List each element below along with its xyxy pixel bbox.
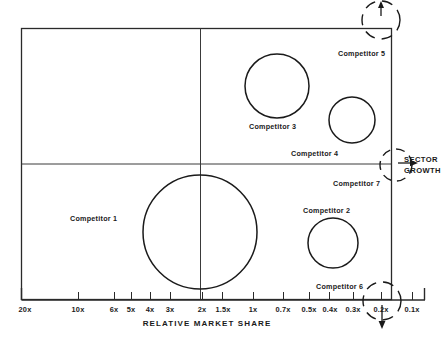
x-tick-label-6x: 6x bbox=[110, 306, 119, 313]
sector-growth-line-2: GROWTH bbox=[404, 165, 441, 176]
x-axis-ticks bbox=[79, 292, 413, 300]
x-tick-label-0.5x: 0.5x bbox=[301, 306, 316, 313]
bubble-label-competitor-6: Competitor 6 bbox=[316, 283, 363, 290]
bubble-label-competitor-2: Competitor 2 bbox=[303, 207, 350, 214]
x-tick-label-0.1x: 0.1x bbox=[404, 306, 419, 313]
x-tick-label-20x: 20x bbox=[19, 306, 32, 313]
x-tick-label-0.7x: 0.7x bbox=[275, 306, 290, 313]
arrow-up-icon bbox=[378, 1, 384, 16]
x-tick-label-0.3x: 0.3x bbox=[345, 306, 360, 313]
bubble-label-competitor-1: Competitor 1 bbox=[70, 215, 117, 222]
x-tick-label-1.5x: 1.5x bbox=[215, 306, 230, 313]
x-tick-label-3x: 3x bbox=[166, 306, 175, 313]
x-tick-label-5x: 5x bbox=[127, 306, 136, 313]
x-tick-label-10x: 10x bbox=[72, 306, 85, 313]
bubble-label-competitor-5: Competitor 5 bbox=[338, 50, 385, 57]
bubble-competitor-4[interactable] bbox=[329, 97, 375, 143]
x-tick-label-0.4x: 0.4x bbox=[322, 306, 337, 313]
x-tick-label-2x: 2x bbox=[198, 306, 207, 313]
sector-growth-line-1: SECTOR bbox=[404, 154, 441, 165]
bubble-label-competitor-3: Competitor 3 bbox=[249, 123, 296, 130]
x-axis-title: RELATIVE MARKET SHARE bbox=[143, 320, 272, 328]
sector-growth-annotation: SECTOR GROWTH bbox=[404, 154, 441, 176]
growth-share-matrix-chart: Competitor 1 Competitor 2 Competitor 3 C… bbox=[0, 0, 443, 340]
bubble-label-competitor-7: Competitor 7 bbox=[333, 180, 380, 187]
bubble-label-competitor-4: Competitor 4 bbox=[291, 150, 338, 157]
x-tick-label-0.2x: 0.2x bbox=[373, 306, 388, 313]
bubble-competitor-3[interactable] bbox=[245, 54, 309, 118]
bubble-competitor-2[interactable] bbox=[308, 218, 358, 268]
x-tick-label-1x: 1x bbox=[249, 306, 258, 313]
x-tick-label-4x: 4x bbox=[146, 306, 155, 313]
